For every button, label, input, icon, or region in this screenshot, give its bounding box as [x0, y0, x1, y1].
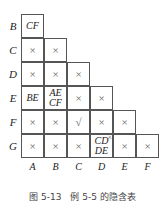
table-cell: CF: [21, 14, 44, 38]
table-cell: √: [67, 110, 90, 134]
table-cell: ×: [21, 62, 44, 86]
row-label: C: [7, 44, 19, 56]
table-cell: ×: [90, 110, 113, 134]
table-cell: ×: [44, 110, 67, 134]
table-cell: ×: [67, 62, 90, 86]
table-cell: CDDE×: [90, 134, 113, 158]
table-cell: BE: [21, 86, 44, 110]
row-label: F: [7, 116, 19, 128]
table-cell: ×: [136, 134, 159, 158]
table-cell: AECF: [44, 86, 67, 110]
col-label: A: [21, 161, 44, 172]
table-cell: ×: [90, 86, 113, 110]
table-cell: ×: [113, 134, 136, 158]
col-label: F: [136, 161, 159, 172]
col-label: E: [113, 161, 136, 172]
row-label: G: [7, 140, 19, 152]
row-label: D: [7, 68, 19, 80]
table-cell: ×: [21, 110, 44, 134]
table-cell: ×: [44, 134, 67, 158]
table-cell: ×: [21, 134, 44, 158]
col-label: B: [44, 161, 67, 172]
table-cell: ×: [44, 62, 67, 86]
row-label: E: [7, 92, 19, 104]
table-cell: ×: [44, 38, 67, 62]
col-label: D: [90, 161, 113, 172]
row-label: B: [7, 20, 19, 32]
table-cell: ×: [67, 134, 90, 158]
table-cell: ×: [21, 38, 44, 62]
table-cell: ×: [67, 86, 90, 110]
col-label: C: [67, 161, 90, 172]
table-cell: ×: [113, 110, 136, 134]
figure-caption: 图 5-13 例 5-5 的隐含表: [0, 190, 165, 202]
